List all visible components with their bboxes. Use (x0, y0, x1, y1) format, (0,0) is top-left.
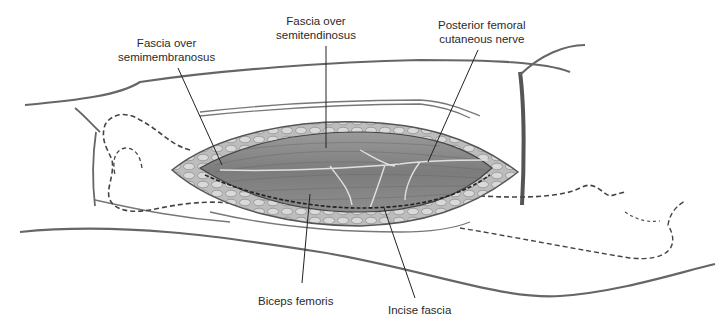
inner-contour-2 (200, 104, 470, 118)
femur-dashed-lower (460, 201, 685, 259)
knee-crease (520, 72, 524, 205)
hip-vertical (93, 132, 96, 206)
label-fascia-semimembranosus: Fascia over semimembranosus (118, 36, 215, 64)
thigh-outline-top (25, 60, 570, 105)
leader-semimembranosus (178, 68, 222, 165)
knee-outline (520, 45, 585, 75)
inner-contour-1 (200, 100, 480, 116)
femur-head-dashed (114, 148, 142, 175)
lower-contour-2 (95, 200, 230, 222)
label-incise-fascia: Incise fascia (388, 303, 451, 317)
label-posterior-femoral-cutaneous-nerve: Posterior femoral cutaneous nerve (438, 18, 526, 46)
femur-dashed-upper (480, 185, 625, 197)
thigh-incision-diagram: Fascia over semimembranosus Fascia over … (0, 0, 727, 328)
label-fascia-semitendinosus: Fascia over semitendinosus (276, 14, 356, 42)
illustration (0, 0, 727, 328)
hip-line (75, 108, 100, 132)
label-biceps-femoris: Biceps femoris (258, 294, 333, 308)
tibia-dashed (625, 212, 660, 221)
thigh-outline-bottom (20, 229, 715, 297)
